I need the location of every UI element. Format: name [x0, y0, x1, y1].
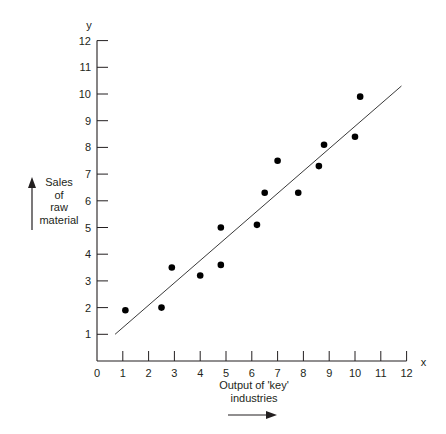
data-point [357, 93, 364, 100]
data-point [218, 262, 225, 269]
data-points [122, 93, 363, 313]
x-axis-label: Output of 'key' industries [200, 379, 308, 405]
y-tick-label: 6 [85, 195, 91, 207]
x-axis-label-line: industries [200, 392, 308, 405]
x-tick-label: 10 [349, 367, 361, 379]
regression-line [115, 86, 401, 334]
x-tick-label: 9 [326, 367, 332, 379]
data-point [218, 224, 225, 231]
data-point [316, 163, 323, 170]
y-tick-label: 7 [85, 168, 91, 180]
y-axis-label-line: raw [36, 201, 82, 214]
right-arrow-icon [266, 411, 277, 419]
y-tick-label: 5 [85, 222, 91, 234]
trend-line [115, 86, 401, 334]
data-point [169, 264, 176, 271]
x-tick-label: 3 [171, 367, 177, 379]
data-point [261, 189, 268, 196]
y-axis-label-line: of [36, 189, 82, 202]
x-tick-label: 11 [375, 367, 386, 379]
data-point [197, 272, 204, 279]
y-tick-label: 3 [85, 275, 91, 287]
x-tick-label: 2 [146, 367, 152, 379]
x-tick-label: 1 [120, 367, 126, 379]
x-axis-label-line: Output of 'key' [200, 379, 308, 392]
y-tick-label: 8 [85, 141, 91, 153]
y-tick-label: 1 [85, 328, 91, 340]
x-tick-label: 8 [300, 367, 306, 379]
data-point [274, 157, 281, 164]
axes: 1234567891011120123456789101112yx [79, 19, 427, 379]
x-tick-label: 4 [197, 367, 203, 379]
x-axis-letter: x [421, 356, 427, 368]
y-axis-label-line: Sales [36, 176, 82, 189]
y-tick-label: 12 [79, 35, 91, 47]
x-tick-label: 7 [275, 367, 281, 379]
y-axis-label: Sales of raw material [36, 176, 82, 226]
x-tick-label: 12 [400, 367, 412, 379]
up-arrow-icon [28, 177, 36, 188]
y-axis-letter: y [86, 19, 92, 31]
y-tick-label: 10 [79, 88, 91, 100]
data-point [158, 304, 165, 311]
y-tick-label: 9 [85, 115, 91, 127]
data-point [352, 133, 359, 140]
data-point [321, 141, 328, 148]
x-tick-label: 5 [223, 367, 229, 379]
x-tick-label: 0 [94, 367, 100, 379]
y-tick-label: 2 [85, 302, 91, 314]
x-tick-label: 6 [249, 367, 255, 379]
data-point [122, 307, 129, 314]
data-point [254, 222, 261, 229]
y-axis-label-line: material [36, 214, 82, 227]
y-tick-label: 11 [80, 61, 91, 73]
data-point [295, 189, 302, 196]
y-tick-label: 4 [85, 248, 91, 260]
